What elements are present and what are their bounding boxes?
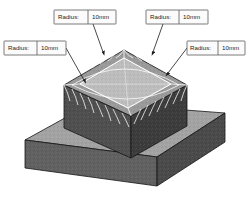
callout-key: Radius: [190, 44, 211, 51]
callout-right[interactable]: Radius: 10mm [187, 41, 245, 55]
callout-value: 10mm [222, 44, 239, 51]
callout-key: Radius: [8, 44, 29, 51]
callout-key: Radius: [58, 13, 79, 20]
callout-left[interactable]: Radius: 10mm [4, 41, 66, 55]
callout-key: Radius: [150, 13, 171, 20]
callout-value: 10mm [92, 13, 109, 20]
callout-top-right[interactable]: Radius: 10mm [146, 10, 208, 24]
cad-drawing-canvas: Radius: 10mm Radius: 10mm Radius: 10mm R… [0, 0, 249, 212]
isometric-model-svg: Radius: 10mm Radius: 10mm Radius: 10mm R… [0, 0, 249, 212]
callout-value: 10mm [41, 44, 58, 51]
callout-top-left[interactable]: Radius: 10mm [54, 10, 116, 24]
callout-value: 10mm [183, 13, 200, 20]
